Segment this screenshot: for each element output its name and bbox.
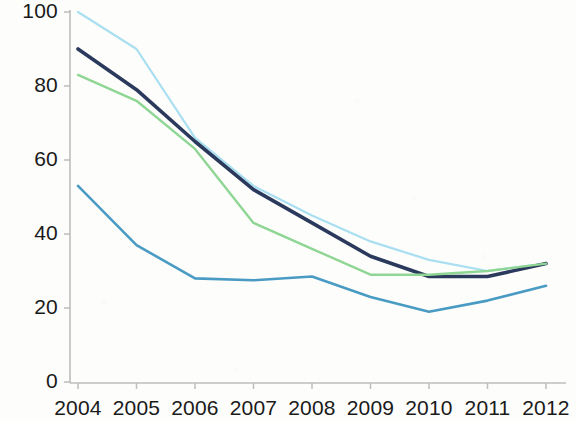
data-line-series-dark-navy <box>78 49 546 277</box>
x-axis-tick-label: 2007 <box>226 396 282 420</box>
x-axis-tick-label: 2012 <box>518 396 574 420</box>
x-axis-ticks <box>78 383 546 389</box>
x-axis-tick-label: 2004 <box>50 396 106 420</box>
x-axis-tick-label: 2009 <box>343 396 399 420</box>
series-lines-group <box>78 12 546 312</box>
y-axis-tick-label: 40 <box>34 221 58 245</box>
line-chart: 020406080100 200420052006200720082009201… <box>0 0 576 421</box>
y-axis-tick-label: 20 <box>34 295 58 319</box>
y-axis-tick-label: 100 <box>22 0 58 23</box>
y-axis-tick-label: 0 <box>46 369 58 393</box>
y-axis-tick-label: 80 <box>34 73 58 97</box>
chart-plot-area <box>0 0 576 421</box>
x-axis-tick-label: 2006 <box>167 396 223 420</box>
y-axis-ticks <box>64 12 70 382</box>
y-axis-tick-label: 60 <box>34 147 58 171</box>
x-axis-tick-label: 2010 <box>401 396 457 420</box>
x-axis-tick-label: 2008 <box>284 396 340 420</box>
data-line-series-light-cyan <box>78 12 546 271</box>
x-axis-tick-label: 2005 <box>109 396 165 420</box>
data-line-series-light-green <box>78 75 546 275</box>
x-axis-tick-label: 2011 <box>460 396 516 420</box>
